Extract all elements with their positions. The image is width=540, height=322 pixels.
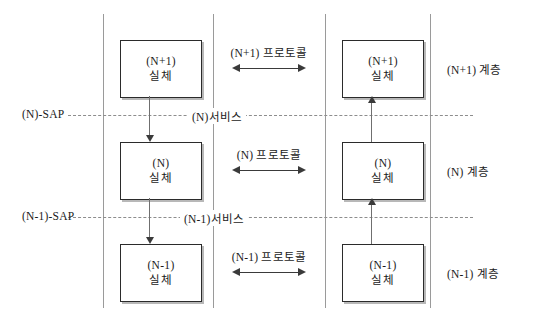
protocol-arrow-n-plus-1 xyxy=(232,64,306,73)
connector-right-upper-shaft xyxy=(371,103,372,142)
entity-box-left-n-plus-1[interactable]: (N+1) 실체 xyxy=(120,40,202,98)
entity-label-line1: (N) xyxy=(153,156,170,171)
column-line-left-outer xyxy=(103,14,104,308)
entity-box-left-n[interactable]: (N) 실체 xyxy=(120,142,202,200)
connector-right-upper-arrowhead xyxy=(368,96,376,103)
entity-label-line2: 실체 xyxy=(149,273,173,288)
entity-label-line2: 실체 xyxy=(371,171,395,186)
entity-label-line2: 실체 xyxy=(371,273,395,288)
connector-left-upper-arrowhead xyxy=(146,135,154,142)
sap-line-n xyxy=(68,115,473,116)
sap-label-n-1: (N-1)-SAP xyxy=(22,210,74,222)
connector-left-lower-shaft xyxy=(149,198,150,238)
layer-label-n-minus-1: (N-1) 계층 xyxy=(447,265,499,281)
protocol-arrow-n xyxy=(232,166,306,175)
entity-label-line1: (N-1) xyxy=(369,258,396,273)
entity-label-line1: (N+1) xyxy=(368,54,398,69)
arrow-shaft xyxy=(239,170,299,171)
arrow-head-right-icon xyxy=(298,64,306,72)
entity-box-right-n-minus-1[interactable]: (N-1) 실체 xyxy=(342,244,424,302)
entity-label-line1: (N) xyxy=(375,156,392,171)
arrow-shaft xyxy=(239,272,299,273)
entity-label-line2: 실체 xyxy=(149,69,173,84)
entity-box-right-n[interactable]: (N) 실체 xyxy=(342,142,424,200)
connector-left-lower-arrowhead xyxy=(146,237,154,244)
diagram-canvas: (N+1) 실체 (N) 실체 (N-1) 실체 (N+1) 실체 (N) 실체… xyxy=(0,0,540,322)
connector-right-lower-arrowhead xyxy=(368,198,376,205)
arrow-head-right-icon xyxy=(298,166,306,174)
layer-label-n: (N) 계층 xyxy=(447,163,489,179)
entity-box-left-n-minus-1[interactable]: (N-1) 실체 xyxy=(120,244,202,302)
entity-label-line2: 실체 xyxy=(149,171,173,186)
protocol-label-n-plus-1: (N+1) 프로토콜 xyxy=(213,44,325,60)
layer-label-n-plus-1: (N+1) 계층 xyxy=(447,61,502,77)
sap-line-n-1 xyxy=(68,217,473,218)
entity-box-right-n-plus-1[interactable]: (N+1) 실체 xyxy=(342,40,424,98)
entity-label-line1: (N+1) xyxy=(146,54,176,69)
service-label-n-1: (N-1)서비스 xyxy=(180,210,248,226)
protocol-label-n: (N) 프로토콜 xyxy=(213,146,325,162)
entity-label-line1: (N-1) xyxy=(147,258,174,273)
protocol-arrow-n-minus-1 xyxy=(232,268,306,277)
protocol-label-n-minus-1: (N-1) 프로토콜 xyxy=(213,248,325,264)
arrow-head-right-icon xyxy=(298,268,306,276)
sap-label-n: (N)-SAP xyxy=(22,108,64,120)
column-line-right-inner xyxy=(325,14,326,308)
connector-right-lower-shaft xyxy=(371,205,372,244)
column-line-right-outer xyxy=(430,14,431,308)
entity-label-line2: 실체 xyxy=(371,69,395,84)
service-label-n: (N)서비스 xyxy=(188,108,246,124)
arrow-shaft xyxy=(239,68,299,69)
connector-left-upper-shaft xyxy=(149,96,150,136)
